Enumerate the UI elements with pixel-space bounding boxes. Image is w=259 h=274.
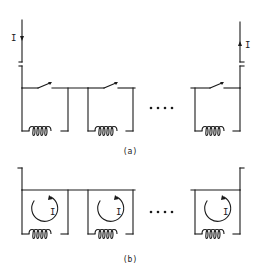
- coil-1-icon: [29, 127, 51, 136]
- loop-n-b: I: [195, 190, 240, 239]
- ellipsis-a: [150, 107, 174, 110]
- panel-b: I I I: [18, 168, 244, 264]
- switch-n-blade: [210, 83, 222, 88]
- panel-b-label: (b): [123, 255, 137, 264]
- output-current-label: I: [245, 40, 250, 50]
- switch-2-blade: [104, 83, 116, 88]
- panel-a-label: (a): [123, 147, 137, 156]
- coil-n-icon: [202, 230, 224, 239]
- loop-1-b: I: [22, 190, 68, 239]
- coil-2-icon: [95, 230, 117, 239]
- coil-n-icon: [202, 127, 224, 136]
- loop-1-a: [22, 82, 88, 136]
- ellipsis-b: [150, 211, 174, 214]
- loop-2-b: I: [88, 190, 133, 239]
- panel-a: I: [11, 20, 250, 156]
- loop-current-label: I: [116, 207, 121, 217]
- coil-2-icon: [95, 127, 117, 136]
- current-arrow-down-icon: [20, 36, 24, 41]
- loop-current-label: I: [223, 207, 228, 217]
- coil-1-icon: [29, 230, 51, 239]
- loop-2-a: [88, 82, 135, 136]
- current-arrow-up-icon: [238, 41, 242, 46]
- switch-1-blade: [38, 83, 50, 88]
- input-current-label: I: [11, 33, 16, 43]
- loop-current-label: I: [50, 207, 55, 217]
- output-lead: I: [238, 22, 250, 88]
- circuit-diagram: I: [0, 0, 259, 274]
- loop-n-a: [191, 82, 240, 136]
- input-lead: I: [11, 20, 24, 88]
